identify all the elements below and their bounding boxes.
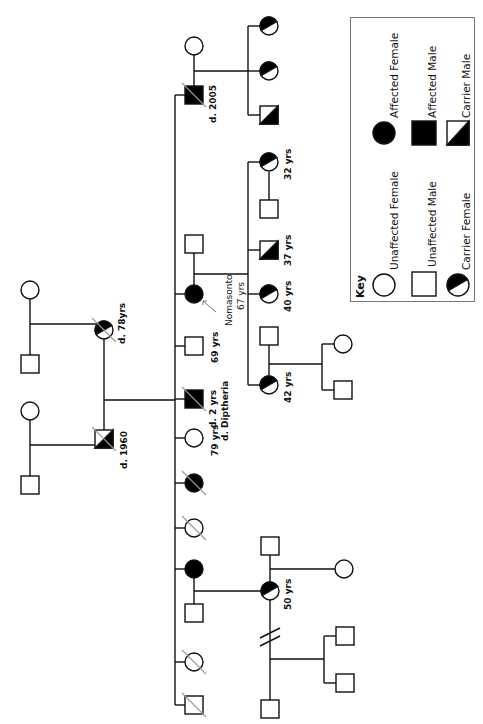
age-32-label: 32 yrs	[283, 149, 293, 180]
key-label-unaffected-male: Unaffected Male	[426, 181, 438, 267]
key-label-carrier-female: Carrier Female	[460, 193, 472, 270]
key-label-unaffected-female: Unaffected Female	[388, 171, 400, 270]
sib-male-age-label: 69 yrs	[210, 332, 220, 363]
proband-name-label: Nomasonto	[224, 275, 234, 326]
proband-age-label: 67 yrs	[236, 282, 246, 310]
age-50-label: 50 yrs	[283, 579, 293, 610]
key-label-affected-female: Affected Female	[388, 33, 400, 118]
key-label-carrier-male: Carrier Male	[460, 54, 472, 118]
age-42-label: 42 yrs	[283, 372, 293, 403]
grandfather-death-label: d. 1960	[119, 431, 129, 469]
key-label-affected-male: Affected Male	[426, 46, 438, 118]
key-title: Key	[354, 275, 367, 298]
unaffected-female	[21, 281, 39, 299]
age-37-label: 37 yrs	[283, 235, 293, 266]
sib-death-age-label: d. 2 yrs	[208, 390, 218, 428]
legend-key	[350, 17, 475, 302]
sib-death-cause-label: d. Diptheria	[220, 381, 230, 441]
grandmother-death-label: d. 78yrs	[117, 303, 127, 344]
age-40-label: 40 yrs	[283, 281, 293, 312]
son-death-label: d. 2005	[208, 85, 218, 123]
unaffected-male	[21, 355, 39, 373]
proband-affected-female	[185, 285, 203, 303]
sib-female-age-label: 79 yrs	[210, 425, 220, 456]
